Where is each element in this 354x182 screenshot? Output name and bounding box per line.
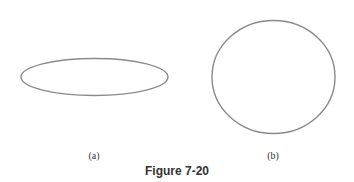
circle-shape-b — [212, 21, 335, 134]
figure-canvas — [0, 0, 354, 182]
ellipse-shape-a — [21, 59, 168, 96]
panel-label-a: (a) — [88, 150, 99, 161]
panel-label-b: (b) — [267, 150, 279, 161]
figure-caption: Figure 7-20 — [145, 164, 209, 178]
